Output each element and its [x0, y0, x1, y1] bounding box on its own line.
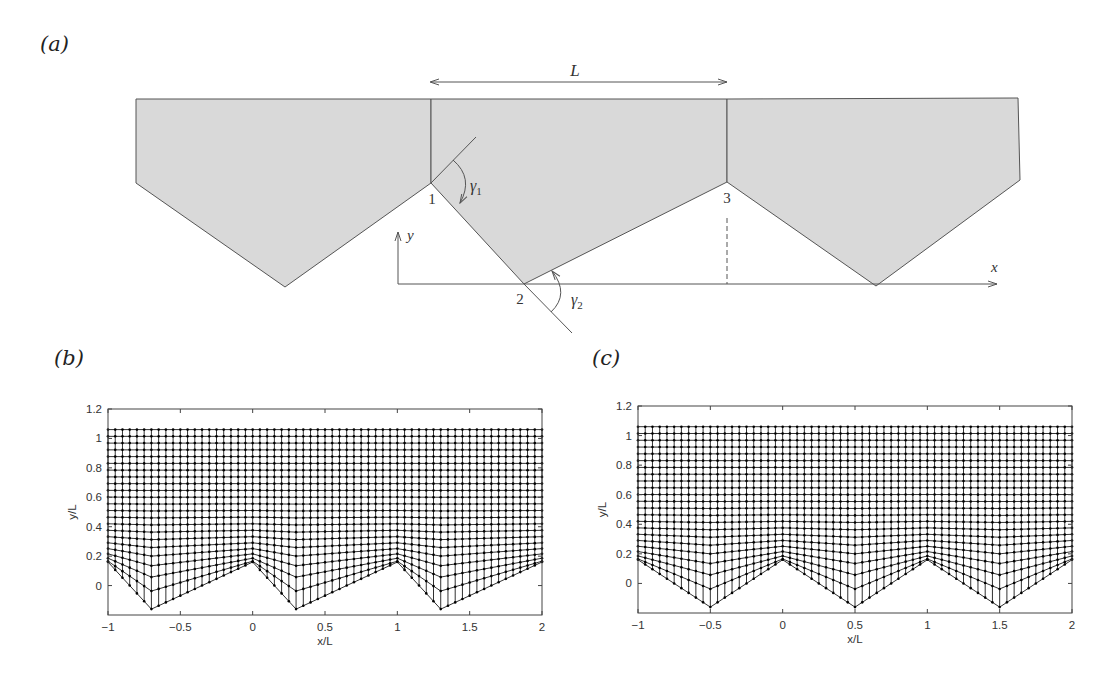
svg-text:−1: −1 [631, 619, 644, 631]
svg-text:x/L: x/L [317, 635, 333, 647]
svg-text:1: 1 [96, 432, 102, 444]
mesh-chart-b: −1−0.500.511.5200.20.40.60.811.2x/Ly/L [66, 403, 545, 647]
svg-text:1.2: 1.2 [86, 403, 102, 415]
svg-text:0: 0 [626, 577, 632, 589]
svg-text:0.5: 0.5 [317, 621, 333, 633]
mesh-chart-c: −1−0.500.511.5200.20.40.60.811.2x/Ly/L [596, 400, 1075, 645]
svg-text:0.2: 0.2 [86, 550, 102, 562]
svg-text:x/L: x/L [847, 633, 863, 645]
svg-text:0: 0 [249, 621, 255, 633]
svg-text:1.5: 1.5 [462, 621, 478, 633]
point-label-2: 2 [516, 291, 524, 307]
wall-shape [136, 98, 1020, 287]
svg-text:1: 1 [626, 430, 632, 442]
svg-text:2: 2 [1069, 619, 1075, 631]
svg-text:0: 0 [96, 580, 102, 592]
panel-label-b: (b) [54, 346, 84, 370]
y-axis-label: y [405, 227, 414, 243]
svg-text:0.5: 0.5 [847, 619, 863, 631]
svg-text:−0.5: −0.5 [169, 621, 192, 633]
svg-text:1.2: 1.2 [616, 400, 632, 412]
svg-text:0.6: 0.6 [86, 491, 102, 503]
x-axis-label: x [990, 259, 998, 275]
panel-label-c: (c) [592, 346, 620, 370]
svg-text:2: 2 [539, 621, 545, 633]
svg-text:0.6: 0.6 [616, 489, 632, 501]
svg-text:0: 0 [779, 619, 785, 631]
svg-text:0.4: 0.4 [86, 521, 103, 533]
svg-text:−0.5: −0.5 [699, 619, 722, 631]
svg-text:0.2: 0.2 [616, 548, 632, 560]
svg-text:y/L: y/L [66, 504, 78, 520]
svg-text:−1: −1 [101, 621, 114, 633]
svg-text:0.8: 0.8 [616, 459, 632, 471]
svg-text:y/L: y/L [596, 501, 608, 517]
length-label: L [569, 61, 579, 80]
point-label-1: 1 [428, 191, 436, 207]
svg-text:0.4: 0.4 [616, 518, 633, 530]
gamma2-label: γ2 [571, 291, 583, 311]
gamma2-arc [551, 271, 561, 312]
svg-text:0.8: 0.8 [86, 462, 102, 474]
svg-text:1: 1 [394, 621, 400, 633]
svg-text:1: 1 [924, 619, 930, 631]
schematic-diagram: L γ1 γ2 1 2 3 x y [0, 0, 1119, 340]
svg-text:1.5: 1.5 [992, 619, 1008, 631]
point-label-3: 3 [723, 190, 731, 206]
